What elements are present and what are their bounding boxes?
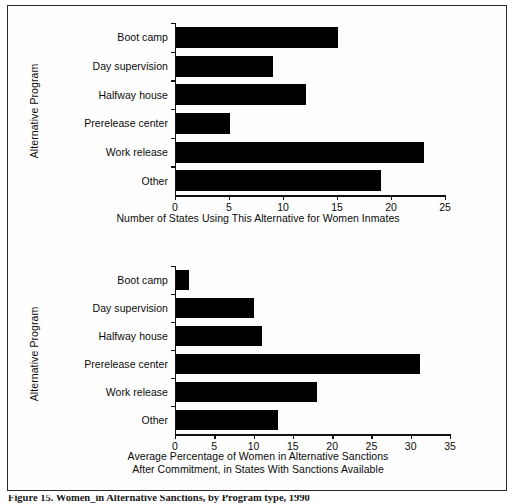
category-label: Day supervision: [47, 52, 175, 81]
x-axis-tick: [229, 195, 230, 200]
bar: [176, 170, 381, 191]
x-axis-tick: [391, 195, 392, 200]
x-axis-tick: [293, 434, 294, 439]
y-axis-tick: [171, 23, 176, 24]
y-axis-tick: [171, 109, 176, 110]
bar-slot: [176, 350, 451, 378]
figure-caption: Figure 15. Women_in Alternative Sanction…: [8, 495, 508, 504]
y-axis-tick: [171, 166, 176, 167]
bar-slot: [176, 294, 451, 322]
category-labels-bottom: Boot camp Day supervision Halfway house …: [47, 266, 175, 434]
bar: [176, 326, 262, 346]
category-label: Other: [47, 406, 175, 434]
category-label: Day supervision: [47, 294, 175, 322]
bar: [176, 142, 424, 163]
bar-slot: [176, 378, 451, 406]
bar: [176, 27, 338, 48]
category-labels-top: Boot camp Day supervision Halfway house …: [47, 23, 175, 195]
bar: [176, 84, 306, 105]
x-axis-tick: [283, 195, 284, 200]
bar-slot: [176, 80, 446, 109]
x-axis-tick: [254, 434, 255, 439]
bar-slot: [176, 52, 446, 81]
x-axis-title-bottom: Average Percentage of Women in Alternati…: [8, 450, 508, 476]
bar: [176, 382, 317, 402]
category-label: Work release: [47, 378, 175, 406]
y-axis-tick: [171, 350, 176, 351]
bar-slot: [176, 138, 446, 167]
x-axis-tick: [332, 434, 333, 439]
chart-bottom: Alternative Program Boot camp Day superv…: [8, 254, 508, 490]
x-axis-tick: [445, 195, 446, 200]
bar-slot: [176, 406, 451, 434]
y-axis-title-top: Alternative Program: [26, 25, 42, 197]
x-axis-tick: [371, 434, 372, 439]
bar-slot: [176, 23, 446, 52]
plot-area-bottom: [175, 266, 451, 434]
x-axis-title-top: Number of States Using This Alternative …: [8, 212, 508, 225]
bar: [176, 113, 230, 134]
category-label: Halfway house: [47, 322, 175, 350]
category-label: Other: [47, 166, 175, 195]
y-axis-tick: [171, 406, 176, 407]
category-label: Boot camp: [47, 266, 175, 294]
bar: [176, 270, 189, 290]
figure-frame: Alternative Program Boot camp Day superv…: [7, 5, 507, 491]
y-axis-tick: [171, 266, 176, 267]
y-axis-tick: [171, 52, 176, 53]
category-label: Prerelease center: [47, 350, 175, 378]
bar: [176, 410, 278, 430]
bar: [176, 56, 273, 77]
x-axis-tick: [214, 434, 215, 439]
y-axis-tick: [171, 80, 176, 81]
bar-slot: [176, 166, 446, 195]
category-label: Work release: [47, 138, 175, 167]
bar: [176, 354, 420, 374]
x-axis-tick: [175, 195, 176, 200]
chart-top: Alternative Program Boot camp Day superv…: [8, 9, 508, 247]
bar-slot: [176, 266, 451, 294]
bar-series-bottom: [176, 266, 451, 434]
x-axis-tick: [175, 434, 176, 439]
x-axis-tick: [337, 195, 338, 200]
category-label: Prerelease center: [47, 109, 175, 138]
x-axis-tick: [450, 434, 451, 439]
bar-slot: [176, 109, 446, 138]
x-axis-bottom: 05101520253035: [175, 434, 450, 436]
y-axis-tick: [171, 322, 176, 323]
y-axis-title-bottom: Alternative Program: [26, 268, 42, 440]
y-axis-tick: [171, 378, 176, 379]
category-label: Boot camp: [47, 23, 175, 52]
bar-series-top: [176, 23, 446, 195]
x-axis-top: 0510152025: [175, 195, 445, 197]
bar: [176, 298, 254, 318]
y-axis-tick: [171, 294, 176, 295]
category-label: Halfway house: [47, 80, 175, 109]
y-axis-tick: [171, 138, 176, 139]
plot-area-top: [175, 23, 446, 195]
x-axis-tick: [411, 434, 412, 439]
bar-slot: [176, 322, 451, 350]
